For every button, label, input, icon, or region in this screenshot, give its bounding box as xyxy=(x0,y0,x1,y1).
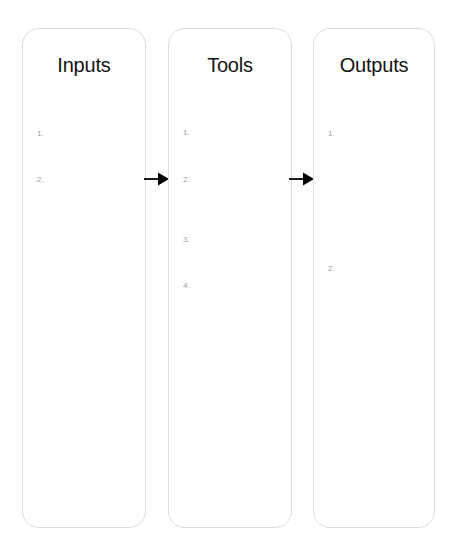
column-card-inputs[interactable]: Inputs 1. 2. xyxy=(22,28,146,528)
list-item[interactable]: 3. xyxy=(183,236,190,244)
arrow-inputs-to-tools xyxy=(144,170,170,188)
list-item[interactable]: 1. xyxy=(37,130,44,138)
arrow-right-icon xyxy=(289,170,315,188)
column-card-tools[interactable]: Tools 1. 2. 3. 4. xyxy=(168,28,292,528)
list-item[interactable]: 1. xyxy=(183,129,190,137)
column-list-outputs: 1. 2. xyxy=(314,29,434,527)
list-item[interactable]: 2. xyxy=(37,176,44,184)
column-list-inputs: 1. 2. xyxy=(23,29,145,527)
list-item[interactable]: 4. xyxy=(183,282,190,290)
arrow-tools-to-outputs xyxy=(289,170,315,188)
arrow-right-icon xyxy=(144,170,170,188)
column-card-outputs[interactable]: Outputs 1. 2. xyxy=(313,28,435,528)
list-item[interactable]: 2. xyxy=(328,265,335,273)
diagram-canvas: Inputs 1. 2. Tools 1. 2. 3. 4. Outputs xyxy=(0,0,458,556)
list-item[interactable]: 1. xyxy=(328,130,335,138)
list-item[interactable]: 2. xyxy=(183,176,190,184)
column-list-tools: 1. 2. 3. 4. xyxy=(169,29,291,527)
